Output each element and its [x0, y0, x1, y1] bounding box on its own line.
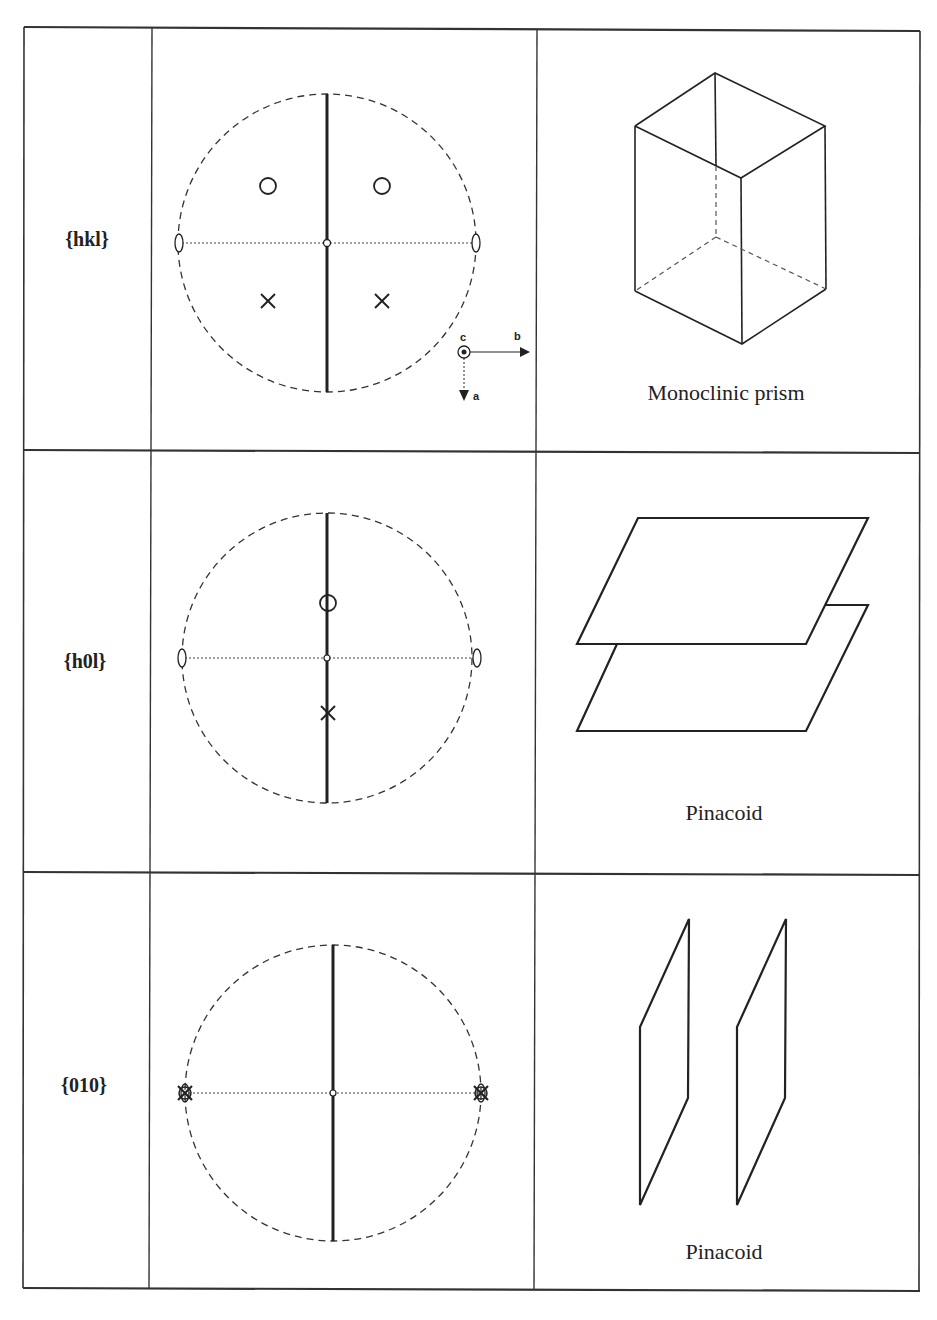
- twofold-symbol-icon: [472, 234, 480, 252]
- coincident-poles-right-icon: [474, 1084, 488, 1102]
- c-axis-label: c: [460, 331, 466, 343]
- form-label-hkl: {hkl}: [12, 228, 162, 251]
- center-point-icon: [324, 240, 331, 247]
- stereogram-h0l: [178, 513, 481, 803]
- caption-pinacoid-2: Pinacoid: [524, 1239, 924, 1265]
- pinacoid-horizontal-drawing: [577, 518, 868, 731]
- a-axis-label: a: [473, 390, 480, 402]
- form-label-010: {010}: [9, 1074, 159, 1097]
- pole-upper-cross-icon: [261, 294, 275, 308]
- b-axis-label: b: [514, 330, 521, 342]
- caption-pinacoid-1: Pinacoid: [524, 800, 924, 826]
- twofold-symbol-icon: [175, 234, 183, 252]
- form-label-h0l: {h0l}: [10, 650, 160, 673]
- pinacoid-vertical-drawing: [640, 919, 786, 1205]
- stereogram-hkl: c b a: [175, 94, 530, 402]
- caption-monoclinic-prism: Monoclinic prism: [526, 380, 926, 406]
- center-point-icon: [324, 655, 330, 661]
- pole-lower-circle-icon: [260, 178, 276, 194]
- monoclinic-prism-drawing: [635, 73, 826, 344]
- twofold-symbol-icon: [178, 649, 186, 667]
- pole-lower-circle-icon: [374, 178, 390, 194]
- stereogram-010: [178, 945, 488, 1241]
- crystal-forms-table: c b a: [0, 0, 937, 1320]
- center-point-icon: [330, 1090, 336, 1096]
- axes-legend: c b a: [458, 330, 530, 402]
- twofold-symbol-icon: [473, 649, 481, 667]
- pole-upper-cross-icon: [375, 294, 389, 308]
